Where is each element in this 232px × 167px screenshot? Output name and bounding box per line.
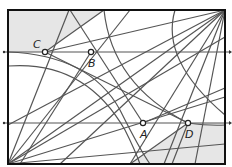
shaded-region-top-left bbox=[8, 10, 104, 52]
arrow-icon bbox=[229, 50, 232, 54]
point-a bbox=[140, 120, 145, 125]
point-b bbox=[88, 49, 93, 54]
point-label-b: B bbox=[88, 57, 96, 70]
point-label-a: A bbox=[139, 128, 148, 141]
arc-left bbox=[8, 52, 150, 164]
endpoint-dot bbox=[3, 122, 5, 124]
endpoint-dot bbox=[3, 51, 5, 53]
point-label-c: C bbox=[33, 38, 41, 51]
point-c bbox=[42, 49, 47, 54]
geometry-diagram: ABCD bbox=[0, 0, 232, 167]
point-label-d: D bbox=[185, 128, 193, 141]
line-a bbox=[143, 88, 225, 123]
point-d bbox=[185, 120, 190, 125]
arrow-icon bbox=[229, 121, 232, 125]
